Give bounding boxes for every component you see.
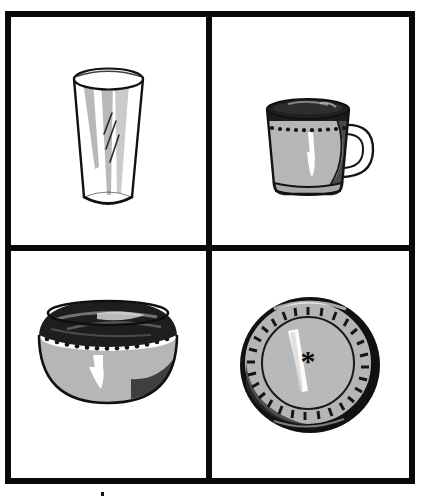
panel-bowl[interactable] — [11, 251, 206, 478]
plate-icon: * — [212, 251, 409, 478]
plate-center-asterisk: * — [301, 344, 316, 377]
panel-mug[interactable] — [212, 17, 409, 245]
mug-icon — [212, 17, 409, 245]
bowl-icon — [11, 251, 206, 478]
panel-plate[interactable]: * — [212, 251, 409, 478]
panel-glass[interactable] — [11, 17, 206, 245]
illustration-page: * — [0, 0, 423, 501]
page-speck — [101, 492, 104, 496]
drinking-glass-icon — [11, 17, 206, 245]
